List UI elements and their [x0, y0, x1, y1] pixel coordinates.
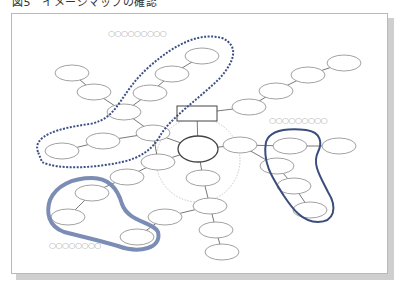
map-node: [185, 48, 219, 64]
map-node: [223, 137, 257, 153]
map-node: [141, 154, 175, 170]
map-node: [199, 222, 233, 238]
map-node: [205, 244, 239, 260]
map-node: [155, 66, 189, 82]
label-top: ○○○○○○○○○: [108, 29, 166, 38]
title-box: [177, 106, 217, 121]
map-node: [86, 133, 120, 149]
label-bottom-left: ○○○○○○○○: [49, 241, 101, 250]
map-node: [133, 85, 167, 101]
map-node: [55, 65, 89, 81]
map-node: [110, 169, 144, 185]
map-node: [45, 143, 79, 159]
map-node: [51, 209, 85, 225]
map-node: [186, 170, 220, 186]
label-right: ○○○○○○○○○: [269, 116, 327, 125]
map-node: [260, 158, 294, 174]
map-node: [259, 83, 293, 99]
map-node: [293, 202, 327, 218]
map-node: [322, 138, 356, 154]
map-node: [193, 198, 227, 214]
map-node: [291, 67, 325, 83]
map-node: [273, 138, 307, 154]
map-node: [327, 55, 361, 71]
map-node: [232, 99, 266, 115]
map-node: [77, 84, 111, 100]
central-node: [178, 136, 218, 162]
map-node: [120, 229, 154, 245]
map-node: [75, 185, 109, 201]
map-node: [148, 209, 182, 225]
